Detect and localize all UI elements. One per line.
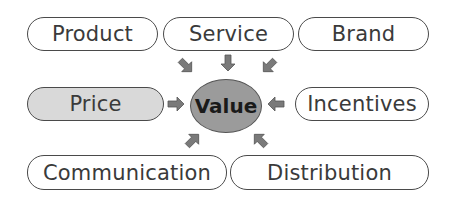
arrow-down-left-icon	[258, 55, 279, 76]
arrow-down-icon	[221, 55, 235, 71]
arrows-layer	[0, 0, 454, 201]
arrow-left-icon	[268, 97, 284, 111]
arrow-right-icon	[168, 97, 184, 111]
arrow-down-right-icon	[175, 55, 196, 76]
arrow-up-left-icon	[249, 129, 270, 150]
arrow-up-right-icon	[182, 129, 203, 150]
